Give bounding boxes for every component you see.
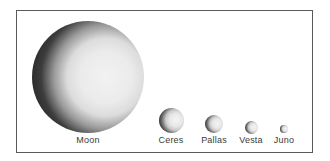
juno-sphere — [280, 125, 288, 133]
moon-label: Moon — [68, 135, 108, 145]
moon-sphere — [32, 21, 144, 133]
juno-label: Juno — [264, 135, 304, 145]
ceres-label: Ceres — [151, 135, 191, 145]
pallas-sphere — [205, 115, 223, 133]
ceres-sphere — [159, 108, 184, 133]
vesta-sphere — [245, 121, 258, 134]
pallas-label: Pallas — [194, 135, 234, 145]
